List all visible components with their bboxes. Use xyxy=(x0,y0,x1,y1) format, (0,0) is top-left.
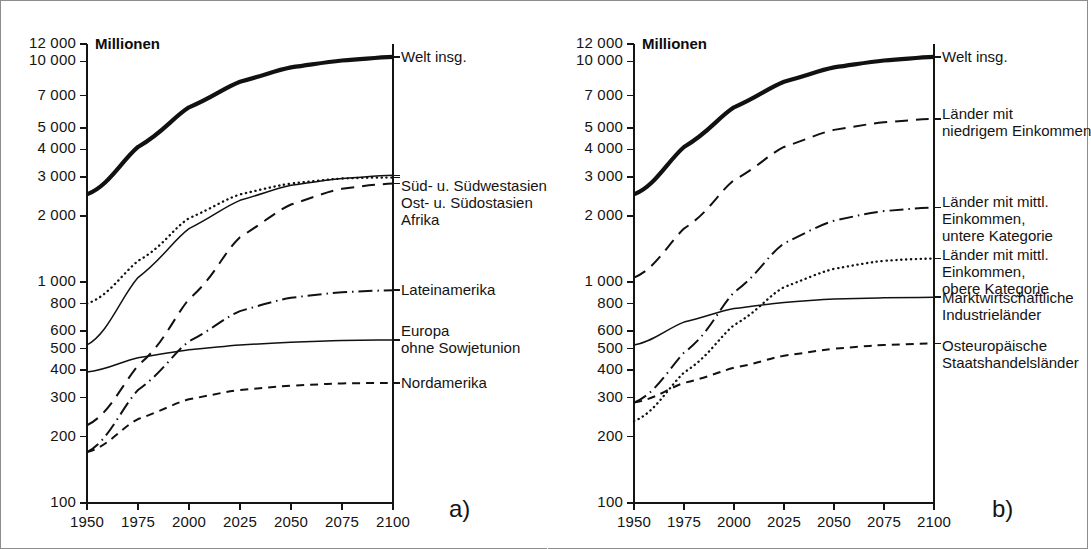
y-axis-tick-label: 400 xyxy=(50,360,76,377)
y-axis-unit-label: Millionen xyxy=(95,35,160,52)
y-axis-tick-label: 800 xyxy=(50,294,76,311)
x-axis-tick-label: 2100 xyxy=(363,513,423,530)
y-axis-tick-label: 5 000 xyxy=(584,118,623,135)
series-label: Welt insg. xyxy=(942,48,1008,65)
series-label: Nordamerika xyxy=(401,374,487,391)
y-axis-tick-label: 5 000 xyxy=(37,118,76,135)
y-axis-tick-label: 3 000 xyxy=(37,167,76,184)
series-line xyxy=(87,175,393,345)
y-axis-tick-label: 1 000 xyxy=(584,272,623,289)
y-axis-tick-label: 10 000 xyxy=(576,51,623,68)
y-axis-tick-label: 1 000 xyxy=(37,272,76,289)
chart-panel-a: 12 00010 0007 0005 0004 0003 0002 0001 0… xyxy=(1,1,547,549)
y-axis-tick-label: 2 000 xyxy=(584,206,623,223)
y-axis-tick-label: 500 xyxy=(50,339,76,356)
series-line xyxy=(87,57,393,195)
y-axis-tick-label: 10 000 xyxy=(29,51,76,68)
y-axis-tick-label: 300 xyxy=(597,388,623,405)
series-label: Europa ohne Sowjetunion xyxy=(401,322,520,356)
series-label: Welt insg. xyxy=(401,48,467,65)
y-axis-tick-label: 200 xyxy=(50,427,76,444)
series-label: Osteuropäische Staatshandelsländer xyxy=(942,337,1079,371)
series-line xyxy=(634,57,934,195)
y-axis-tick-label: 100 xyxy=(50,493,76,510)
y-axis-tick-label: 12 000 xyxy=(29,34,76,51)
y-axis-tick-label: 600 xyxy=(50,321,76,338)
series-label: Länder mit mittl. Einkommen, untere Kate… xyxy=(942,193,1053,244)
y-axis-tick-label: 400 xyxy=(597,360,623,377)
y-axis-tick-label: 200 xyxy=(597,427,623,444)
series-label: Ost- u. Südostasien xyxy=(401,194,533,211)
y-axis-tick-label: 3 000 xyxy=(584,167,623,184)
panel-letter: b) xyxy=(992,495,1013,523)
series-line xyxy=(634,119,934,278)
plot-canvas xyxy=(1,1,547,549)
series-label: Afrika xyxy=(401,211,439,228)
chart-panel-b: 12 00010 0007 0005 0004 0003 0002 0001 0… xyxy=(547,1,1090,549)
y-axis-tick-label: 100 xyxy=(597,493,623,510)
panel-letter: a) xyxy=(449,495,470,523)
y-axis-tick-label: 4 000 xyxy=(584,139,623,156)
y-axis-tick-label: 800 xyxy=(597,294,623,311)
series-label: Länder mit niedrigem Einkommen xyxy=(942,105,1091,139)
y-axis-tick-label: 2 000 xyxy=(37,206,76,223)
series-line xyxy=(634,343,934,402)
series-line xyxy=(634,208,934,403)
series-line xyxy=(87,184,393,426)
y-axis-tick-label: 4 000 xyxy=(37,139,76,156)
y-axis-tick-label: 12 000 xyxy=(576,34,623,51)
x-axis-tick-label: 2100 xyxy=(904,513,964,530)
y-axis-unit-label: Millionen xyxy=(642,35,707,52)
y-axis-tick-label: 300 xyxy=(50,388,76,405)
y-axis-tick-label: 7 000 xyxy=(584,86,623,103)
series-line xyxy=(634,297,934,345)
series-line xyxy=(634,259,934,422)
y-axis-tick-label: 600 xyxy=(597,321,623,338)
series-label: Süd- u. Südwestasien xyxy=(401,177,547,194)
y-axis-tick-label: 7 000 xyxy=(37,86,76,103)
series-label: Lateinamerika xyxy=(401,281,495,298)
y-axis-tick-label: 500 xyxy=(597,339,623,356)
series-line xyxy=(87,340,393,372)
series-label: Marktwirtschaftliche Industrieländer xyxy=(942,289,1074,323)
series-line xyxy=(87,383,393,452)
